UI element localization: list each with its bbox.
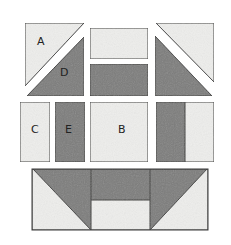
label-a: A (37, 35, 45, 48)
bottom-unit (32, 169, 208, 230)
quilt-diagram: A D C E B (0, 0, 231, 245)
top-left-unit: A D (25, 23, 84, 96)
label-e: E (65, 123, 72, 136)
top-middle-dark-rect (90, 64, 148, 96)
middle-right-light-half (185, 102, 214, 162)
center-unit: B (90, 102, 148, 162)
label-d: D (60, 66, 68, 79)
middle-right-unit (156, 102, 214, 162)
label-c: C (31, 123, 39, 136)
top-middle-light-rect (90, 28, 148, 59)
bottom-middle-dark-rect (91, 169, 150, 200)
bottom-middle-light-rect (91, 200, 150, 230)
middle-left-unit: C E (20, 102, 85, 162)
label-b: B (118, 123, 126, 136)
middle-right-dark-half (156, 102, 185, 162)
top-right-unit (155, 23, 214, 96)
top-middle-unit (90, 28, 148, 96)
